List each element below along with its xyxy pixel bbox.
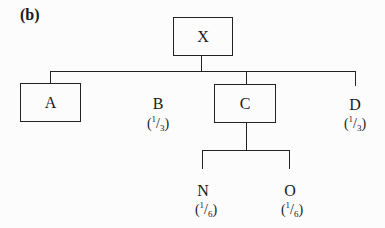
n-share-num: 1 (200, 200, 205, 210)
d-share-den: 3 (357, 123, 362, 133)
node-n-share: (1/6) (195, 200, 217, 219)
figure-label: (b) (20, 6, 40, 24)
connector-n (202, 150, 203, 169)
connector-level2-bar (202, 150, 290, 151)
o-share-den: 6 (294, 209, 299, 219)
node-x-label: X (197, 28, 209, 46)
node-o-share: (1/6) (281, 200, 303, 219)
connector-c-stem (246, 123, 247, 151)
node-b-share: (1/3) (147, 114, 169, 133)
connector-d (355, 71, 356, 86)
b-share-num: 1 (152, 114, 157, 124)
connector-x-stem (201, 56, 202, 72)
connector-o (289, 150, 290, 169)
node-d-label: D (349, 96, 361, 114)
node-n-label: N (197, 182, 209, 200)
node-a-label: A (45, 94, 57, 112)
o-share-num: 1 (286, 200, 291, 210)
node-o-label: O (284, 182, 296, 200)
node-c-label: C (240, 95, 251, 113)
connector-a (50, 71, 51, 83)
node-b-label: B (153, 95, 164, 113)
node-d-share: (1/3) (344, 114, 366, 133)
n-share-den: 6 (208, 209, 213, 219)
node-c-box: C (214, 84, 276, 123)
d-share-num: 1 (349, 114, 354, 124)
connector-level1-bar (50, 71, 356, 72)
b-share-den: 3 (160, 123, 165, 133)
node-x-box: X (173, 17, 233, 56)
ownership-tree-diagram: (b) X A B (1/3) C D (1/3) N (1/6) O (1/6… (0, 0, 385, 228)
connector-c (246, 71, 247, 84)
node-a-box: A (20, 83, 81, 122)
